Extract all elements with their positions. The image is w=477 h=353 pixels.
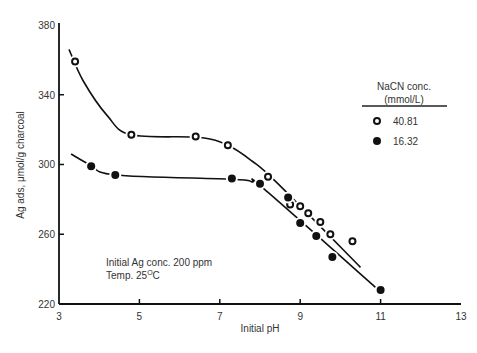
filled-circle-icon [373,137,381,145]
data-point-filled [284,194,292,202]
annotation-temp: Temp. 25OC [106,269,160,281]
data-point-open [327,231,333,237]
x-tick-label: 13 [455,311,467,322]
data-point-filled [228,174,236,182]
plot-area: 22026030034038035791113 [38,20,467,322]
y-tick-label: 380 [38,20,55,31]
data-point-filled [256,180,264,188]
data-point-open [305,210,311,216]
x-tick-label: 9 [297,311,303,322]
data-point-open [349,238,355,244]
x-tick-label: 3 [56,311,62,322]
legend-title-line2: (mmol/L) [384,94,423,105]
x-tick-label: 7 [217,311,223,322]
data-point-filled [328,253,336,261]
y-axis-title: Ag ads, μmol/g charcoal [15,111,26,218]
x-axis-label: Initial pH [241,323,280,334]
annotation-ag-conc: Initial Ag conc. 200 ppm [106,257,212,268]
data-point-open [128,132,134,138]
data-point-filled [111,171,119,179]
y-tick-label: 260 [38,229,55,240]
y-axis-label: Ag ads, μmol/g charcoal [15,111,26,218]
data-point-open [193,134,199,140]
x-tick-label: 5 [137,311,143,322]
x-tick-label: 11 [375,311,386,322]
legend-title-line1: NaCN conc. [377,81,431,92]
data-point-filled [312,232,320,240]
legend-label-series-2: 16.32 [393,136,418,147]
y-tick-label: 220 [38,299,55,310]
legend: NaCN conc. (mmol/L) 40.81 16.32 [362,81,447,147]
data-point-open [72,59,78,65]
data-point-open [317,219,323,225]
y-tick-label: 340 [38,90,55,101]
data-point-open [265,174,271,180]
data-point-filled [296,219,304,227]
open-circle-icon [374,118,380,124]
data-point-open [297,203,303,209]
annotation: Initial Ag conc. 200 ppm Temp. 25OC [106,257,212,281]
chart: 22026030034038035791113 Ag ads, μmol/g c… [0,0,477,353]
data-point-filled [87,162,95,170]
legend-label-series-1: 40.81 [393,116,418,127]
data-point-filled [377,286,385,294]
data-point-open [225,142,231,148]
y-tick-label: 300 [38,159,55,170]
